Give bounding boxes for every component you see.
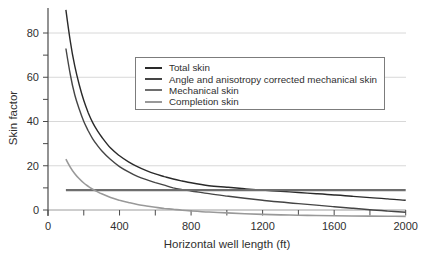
legend-item: Completion skin (145, 96, 384, 107)
legend-item: Angle and anisotropy corrected mechanica… (145, 73, 384, 84)
y-tick-label: 20 (27, 160, 39, 172)
legend-item: Total skin (145, 62, 384, 73)
legend-label: Total skin (169, 62, 210, 73)
legend-line-marker (145, 101, 162, 103)
x-tick-label: 2000 (393, 220, 417, 232)
legend-line-marker (145, 67, 162, 69)
y-tick-label: 80 (27, 27, 39, 39)
y-axis-title: Skin factor (7, 53, 19, 183)
skin-factor-figure: 0400800120016002000020406080 Total skinA… (0, 0, 421, 263)
y-tick-label: 60 (27, 71, 39, 83)
legend-line-marker (145, 78, 162, 80)
legend-label: Completion skin (169, 96, 239, 107)
x-tick-label: 0 (45, 220, 51, 232)
y-tick-label: 0 (33, 204, 39, 216)
legend-label: Angle and anisotropy corrected mechanica… (169, 74, 377, 85)
x-tick-label: 1200 (250, 220, 274, 232)
x-tick-label: 1600 (322, 220, 346, 232)
y-tick-label: 40 (27, 115, 39, 127)
legend-label: Mechanical skin (169, 85, 239, 96)
chart-legend: Total skinAngle and anisotropy corrected… (135, 57, 385, 110)
legend-line-marker (145, 89, 162, 91)
legend-item: Mechanical skin (145, 85, 384, 96)
x-axis-title: Horizontal well length (ft) (48, 238, 406, 250)
x-tick-label: 800 (182, 220, 200, 232)
plot-area: 0400800120016002000020406080 (0, 0, 421, 263)
x-tick-label: 400 (110, 220, 128, 232)
